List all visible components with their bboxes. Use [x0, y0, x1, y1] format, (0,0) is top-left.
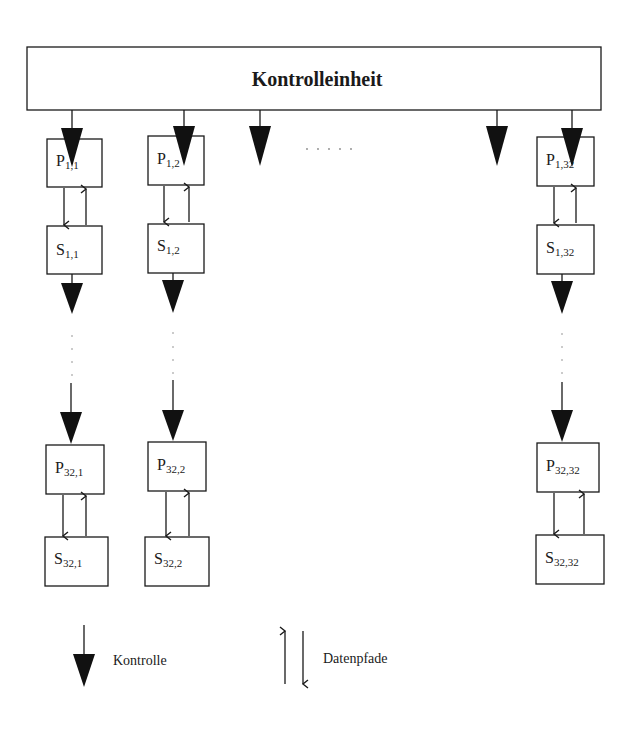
control-arrow-icons: [60, 126, 583, 687]
memory-label-s-1-32: S1,32: [546, 240, 574, 258]
memory-label-s-1-1: S1,1: [56, 242, 79, 260]
array-processor-diagram: [0, 0, 634, 729]
memory-label-s-1-2: S1,2: [157, 238, 180, 256]
memory-label-s-32-1: S32,1: [54, 551, 82, 569]
legend-datapaths-label: Datenpfade: [323, 651, 388, 667]
memory-label-s-32-2: S32,2: [154, 551, 182, 569]
pe-label-p-1-2: P1,2: [157, 151, 180, 169]
pe-label-p-1-32: P1,32: [546, 152, 574, 170]
pe-label-p-1-1: P1,1: [56, 153, 79, 171]
pe-label-p-32-1: P32,1: [55, 460, 83, 478]
pe-label-p-32-2: P32,2: [157, 457, 185, 475]
pe-label-p-32-32: P32,32: [546, 458, 580, 476]
memory-label-s-32-32: S32,32: [545, 550, 579, 568]
control-unit-label: Kontrolleinheit: [0, 68, 634, 91]
legend-control-label: Kontrolle: [113, 653, 167, 669]
